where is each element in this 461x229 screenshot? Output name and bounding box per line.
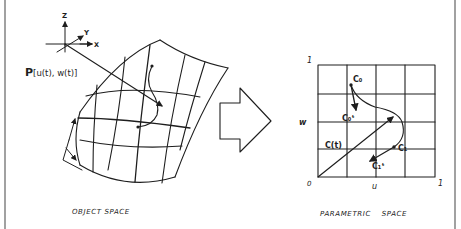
coordinate-axes-icon: [46, 22, 92, 52]
c0-label: C₀: [353, 75, 363, 84]
u-max-tick-label: 1: [438, 179, 443, 188]
object-space-panel: Z Y X P[u(t), w(t)]: [25, 12, 228, 216]
w-axis-label: w: [299, 118, 307, 127]
point-label-args: [u(t), w(t)]: [33, 68, 77, 78]
parametric-space-caption: PARAMETRIC SPACE: [320, 210, 407, 218]
parametric-grid: [318, 65, 435, 177]
w-max-tick-label: 1: [307, 56, 312, 65]
diagram-canvas: Z Y X P[u(t), w(t)]: [0, 0, 461, 229]
axis-x-label: X: [94, 41, 99, 49]
u-axis-label: u: [372, 182, 377, 191]
c0-tangent-label: C₀ᵗ: [342, 114, 354, 123]
point-label: P[u(t), w(t)]: [25, 66, 77, 79]
c-t-label: C(t): [325, 141, 342, 150]
c1-tangent-label: C₁ᵗ: [372, 162, 384, 171]
position-vector-arrow: [65, 44, 162, 106]
boundary-tangent-arrow-down: [66, 148, 76, 160]
origin-tick-label: 0: [307, 180, 312, 188]
axis-y-label: Y: [83, 29, 90, 37]
axis-z-label: Z: [62, 12, 67, 20]
boundary-tangent-arrow-up: [69, 119, 75, 140]
point-label-p: P: [25, 66, 33, 79]
surface-patch: [76, 40, 228, 183]
c1-label: C₁: [398, 144, 408, 153]
parametric-space-panel: C₀ C₀ᵗ C(t) C₁ C₁ᵗ w u 0 1 1 PARAMETRIC …: [299, 56, 443, 218]
right-arrow-icon: [220, 88, 271, 152]
object-space-caption: OBJECT SPACE: [72, 208, 130, 216]
c0-tangent-arrow: [351, 85, 356, 110]
left-boundary-stroke: [63, 140, 82, 170]
